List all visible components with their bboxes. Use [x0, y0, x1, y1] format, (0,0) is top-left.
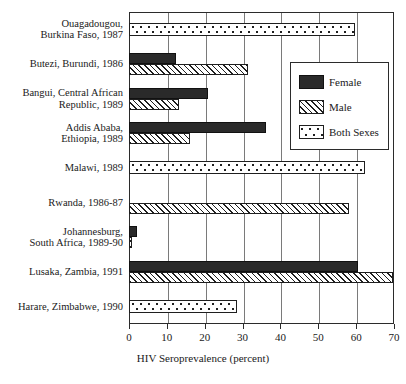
- legend: Female Male Both Sexes: [290, 62, 389, 150]
- x-tick-label: 30: [223, 330, 263, 344]
- solid-black-swatch-icon: [299, 75, 324, 89]
- legend-item-both-sexes: Both Sexes: [299, 123, 379, 141]
- bar-male: [129, 203, 349, 214]
- x-axis-title: HIV Seroprevalence (percent): [0, 352, 406, 364]
- bar-male: [129, 272, 393, 283]
- legend-label-male: Male: [329, 101, 352, 114]
- category-label-line: Republic, 1989: [0, 99, 123, 111]
- category-label: Bangui, Central AfricanRepublic, 1989: [0, 87, 123, 110]
- dotted-swatch-icon: [299, 125, 324, 139]
- x-tick-label: 60: [336, 330, 376, 344]
- chart-row: [129, 185, 394, 220]
- legend-label-female: Female: [329, 76, 361, 89]
- chart-row: [129, 255, 394, 290]
- x-tick-mark: [318, 324, 319, 329]
- category-label-line: Butezi, Burundi, 1986: [0, 58, 123, 70]
- legend-label-both-sexes: Both Sexes: [329, 126, 379, 139]
- bar-female: [129, 226, 137, 237]
- x-axis-tick-labels: 010203040506070: [0, 330, 406, 346]
- category-label: Butezi, Burundi, 1986: [0, 58, 123, 70]
- chart-row: [129, 289, 394, 324]
- bar-male: [129, 133, 190, 144]
- category-label: Johannesburg,South Africa, 1989-90: [0, 226, 123, 249]
- category-label: Lusaka, Zambia, 1991: [0, 266, 123, 278]
- x-tick-mark: [167, 324, 168, 329]
- bar-female: [129, 122, 266, 133]
- hiv-seroprevalence-bar-chart: Ouagadougou,Burkina Faso, 1987Butezi, Bu…: [0, 0, 406, 384]
- x-tick-mark: [205, 324, 206, 329]
- chart-row: [129, 220, 394, 255]
- category-label: Ouagadougou,Burkina Faso, 1987: [0, 18, 123, 41]
- category-label-line: Ethiopia, 1989: [0, 133, 123, 145]
- category-label: Malawi, 1989: [0, 162, 123, 174]
- x-tick-mark: [394, 324, 395, 329]
- x-tick-label: 70: [374, 330, 406, 344]
- category-label-line: Lusaka, Zambia, 1991: [0, 266, 123, 278]
- category-label-line: Malawi, 1989: [0, 162, 123, 174]
- category-label-line: Bangui, Central African: [0, 87, 123, 99]
- category-label-line: Ouagadougou,: [0, 18, 123, 30]
- x-tick-label: 20: [185, 330, 225, 344]
- category-label: Harare, Zimbabwe, 1990: [0, 301, 123, 313]
- bar-female: [129, 261, 358, 272]
- bar-both-sexes: [129, 23, 355, 36]
- legend-item-male: Male: [299, 98, 352, 116]
- diagonal-hatch-swatch-icon: [299, 100, 324, 114]
- category-label: Rwanda, 1986-87: [0, 197, 123, 209]
- bar-both-sexes: [129, 161, 365, 174]
- category-label-line: Johannesburg,: [0, 226, 123, 238]
- category-label: Addis Ababa,Ethiopia, 1989: [0, 122, 123, 145]
- category-label-line: Rwanda, 1986-87: [0, 197, 123, 209]
- x-tick-label: 10: [147, 330, 187, 344]
- bar-male: [129, 64, 248, 75]
- category-label-line: Burkina Faso, 1987: [0, 29, 123, 41]
- x-tick-mark: [356, 324, 357, 329]
- bar-male: [129, 237, 132, 248]
- bar-male: [129, 99, 179, 110]
- category-labels: Ouagadougou,Burkina Faso, 1987Butezi, Bu…: [0, 12, 126, 324]
- bars-layer: [129, 12, 394, 324]
- bar-both-sexes: [129, 300, 237, 313]
- bar-female: [129, 53, 176, 64]
- category-label-line: South Africa, 1989-90: [0, 237, 123, 249]
- chart-row: [129, 12, 394, 47]
- x-tick-mark: [243, 324, 244, 329]
- x-tick-label: 50: [298, 330, 338, 344]
- x-tick-label: 0: [109, 330, 149, 344]
- x-tick-label: 40: [260, 330, 300, 344]
- x-tick-mark: [280, 324, 281, 329]
- category-label-line: Addis Ababa,: [0, 122, 123, 134]
- legend-item-female: Female: [299, 73, 361, 91]
- chart-row: [129, 151, 394, 186]
- category-label-line: Harare, Zimbabwe, 1990: [0, 301, 123, 313]
- x-tick-mark: [129, 324, 130, 329]
- bar-female: [129, 88, 208, 99]
